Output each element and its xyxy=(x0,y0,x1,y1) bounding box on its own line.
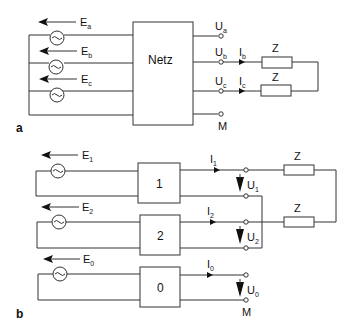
box-label-1: 1 xyxy=(156,177,163,191)
label-uc: Uc xyxy=(215,75,227,89)
network-box-label: Netz xyxy=(148,53,173,67)
current-arrow-icon xyxy=(214,167,220,173)
impedance-z1 xyxy=(262,57,292,68)
voltage-arrow-icon xyxy=(236,282,244,297)
label-u2: U2 xyxy=(247,231,259,245)
current-arrow-icon xyxy=(207,272,213,278)
panel-b: E1 1 I1 U1 E2 xyxy=(16,149,336,321)
label-ea: Ea xyxy=(80,16,91,30)
terminal-0a xyxy=(244,273,248,277)
label-m: M xyxy=(218,120,227,132)
terminal-1a xyxy=(244,168,248,172)
terminal-m xyxy=(219,112,223,116)
current-arrow-icon xyxy=(210,219,216,225)
label-z2: Z xyxy=(272,71,279,83)
label-e1: E1 xyxy=(82,149,93,163)
terminal-2b xyxy=(244,246,248,250)
impedance-z2 xyxy=(284,217,314,227)
label-z1: Z xyxy=(272,42,279,54)
label-i2: I2 xyxy=(207,205,214,219)
voltage-arrow-icon xyxy=(236,229,244,244)
system-2: E2 2 I2 U2 xyxy=(37,201,284,255)
label-eb: Eb xyxy=(81,45,92,59)
source-ea: Ea xyxy=(38,16,91,45)
panel-a: Ea Eb Ec Netz Ua Ub Ib Z xyxy=(16,16,318,135)
voltage-arrow-icon xyxy=(236,177,244,192)
label-ib: Ib xyxy=(239,46,246,60)
label-i1: I1 xyxy=(210,153,217,167)
label-m: M xyxy=(242,306,251,318)
label-ec: Ec xyxy=(81,73,92,87)
box-label-0: 0 xyxy=(157,281,164,295)
network-box xyxy=(133,22,193,125)
label-ub: Ub xyxy=(215,46,227,60)
label-u1: U1 xyxy=(247,179,259,193)
terminal-uc xyxy=(219,89,223,93)
terminal-ua xyxy=(219,34,223,38)
impedance-z1 xyxy=(284,165,314,175)
panel-label-b: b xyxy=(16,307,23,321)
source-ec: Ec xyxy=(39,73,92,102)
label-i0: I0 xyxy=(207,258,214,272)
terminal-2a xyxy=(244,220,248,224)
terminal-ub xyxy=(219,60,223,64)
label-ua: Ua xyxy=(215,20,227,34)
label-e2: E2 xyxy=(82,201,93,215)
impedance-z2 xyxy=(261,85,291,96)
label-ic: Ic xyxy=(239,75,246,89)
panel-label-a: a xyxy=(16,121,23,135)
terminal-1b xyxy=(244,194,248,198)
source-eb: Eb xyxy=(39,45,92,74)
label-u0: U0 xyxy=(247,284,259,298)
system-0: E0 0 I0 U0 M xyxy=(38,253,259,318)
terminal-0b xyxy=(244,298,248,302)
label-e0: E0 xyxy=(83,253,94,267)
circuit-diagram: Ea Eb Ec Netz Ua Ub Ib Z xyxy=(0,0,353,335)
system-1: E1 1 I1 U1 xyxy=(36,149,284,203)
label-z1: Z xyxy=(294,150,301,162)
box-label-2: 2 xyxy=(157,229,164,243)
label-z2: Z xyxy=(294,202,301,214)
